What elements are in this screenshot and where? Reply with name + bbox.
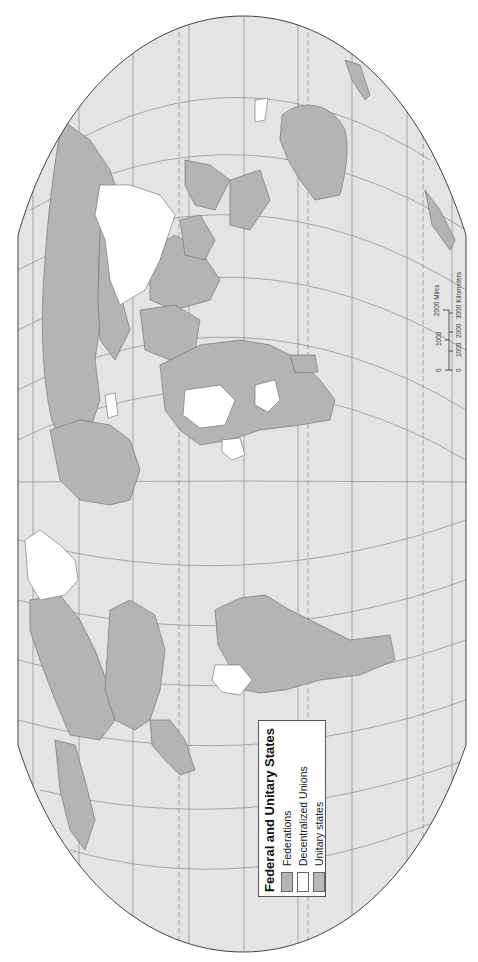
legend-item-decentralized-unions: Decentralized Unions: [295, 727, 310, 892]
madagascar: [290, 355, 318, 373]
world-map: [0, 0, 478, 962]
decentralized-unions-swatch: [297, 872, 309, 892]
scale-km-1000: 1000: [455, 343, 462, 357]
legend-item-federations: Federations: [279, 727, 294, 892]
scale-km-2000: 2000: [455, 324, 462, 338]
scale-km-3000: 3000 Kilometers: [455, 272, 462, 319]
scale-bar: 0 1000 2000 Miles 0 1000 2000 3000 Kilom…: [427, 255, 471, 375]
legend-item-unitary-states: Unitary states: [311, 727, 326, 892]
legend-title: Federal and Unitary States: [262, 727, 278, 892]
federations-swatch: [281, 872, 293, 892]
scale-miles-2000: 2000 Miles: [433, 285, 440, 316]
map-legend: Federal and Unitary States Federations D…: [258, 720, 326, 897]
unitary-states-swatch: [313, 872, 325, 892]
scale-km-0: 0: [455, 368, 462, 372]
scale-miles-0: 0: [435, 368, 442, 372]
scale-miles-1000: 1000: [435, 332, 442, 346]
legend-label: Decentralized Unions: [297, 766, 309, 866]
legend-label: Unitary states: [313, 802, 325, 866]
legend-label: Federations: [281, 811, 293, 866]
